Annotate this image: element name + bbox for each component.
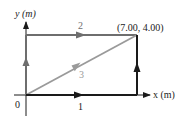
path-2-horizontal-arrow-icon	[76, 32, 86, 39]
y-axis-label: y (m)	[14, 8, 36, 20]
path-3-label: 3	[79, 69, 84, 80]
path-1-label: 1	[78, 101, 83, 112]
path-diagram: y (m) x (m) 0 (7.00, 4.00) 1 2 3	[0, 0, 180, 122]
endpoint-coordinate-label: (7.00, 4.00)	[117, 22, 164, 34]
x-axis-label: x (m)	[153, 89, 175, 101]
path-3-diagonal-segment	[26, 35, 137, 95]
path-2-label: 2	[78, 20, 83, 31]
path-1-horizontal-arrow-icon	[74, 92, 84, 99]
path-2-vertical-arrow-icon	[23, 57, 30, 66]
origin-label: 0	[15, 99, 20, 110]
path-1-vertical-arrow-icon	[134, 62, 141, 72]
